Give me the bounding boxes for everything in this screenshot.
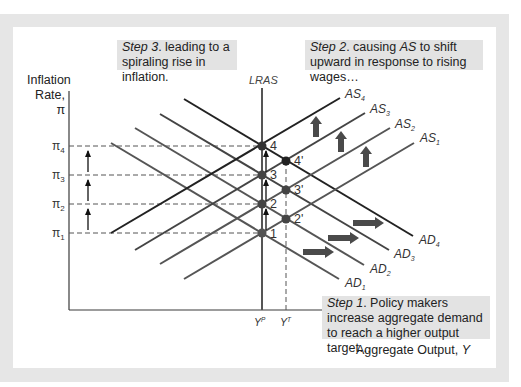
svg-text:AS1: AS1 <box>419 131 440 146</box>
step2-note: Step 2. causing AS to shift upward in re… <box>305 40 483 70</box>
figure: 4 3 2 1 4' 3' 2' π4 π3 π2 π1 YP YT LRAS … <box>0 0 521 387</box>
as3-curve <box>135 113 365 250</box>
svg-text:1: 1 <box>270 227 277 241</box>
step1-note: Step 1. Policy makers increase aggregate… <box>322 296 490 339</box>
svg-text:4: 4 <box>270 139 277 153</box>
step3-note: Step 3. leading to a spiraling rise in i… <box>117 40 237 70</box>
svg-text:2': 2' <box>294 212 303 226</box>
svg-text:π2: π2 <box>52 197 65 213</box>
svg-text:π3: π3 <box>52 168 65 184</box>
as4-curve <box>111 98 340 233</box>
svg-text:AD2: AD2 <box>369 262 391 277</box>
svg-text:3: 3 <box>270 168 277 182</box>
right-arrow-icon <box>303 246 334 258</box>
up-arrow-icon <box>310 116 322 137</box>
svg-text:4': 4' <box>294 154 303 168</box>
svg-text:π1: π1 <box>52 226 65 242</box>
svg-text:AD3: AD3 <box>393 247 415 262</box>
svg-text:π4: π4 <box>52 139 65 155</box>
right-arrow-icon <box>328 232 359 244</box>
inflation-tick-labels: π4 π3 π2 π1 <box>52 139 65 242</box>
svg-text:AS4: AS4 <box>344 87 365 102</box>
svg-text:YT: YT <box>280 316 292 328</box>
y-axis-label: Inflation Rate, π <box>27 73 65 118</box>
svg-text:2: 2 <box>270 197 277 211</box>
svg-text:AS3: AS3 <box>369 102 390 117</box>
svg-text:AD1: AD1 <box>344 276 366 291</box>
up-arrow-icon <box>360 146 372 167</box>
ad2-curve <box>135 128 364 265</box>
ad1-curve <box>111 143 339 279</box>
svg-text:3': 3' <box>294 183 303 197</box>
lras-label: LRAS <box>249 74 278 86</box>
as-shift-arrows <box>310 116 372 167</box>
svg-text:AS2: AS2 <box>394 117 415 132</box>
output-tick-labels: YP YT <box>254 316 292 328</box>
right-arrow-icon <box>353 217 384 229</box>
up-arrow-icon <box>335 131 347 152</box>
svg-text:AD4: AD4 <box>418 233 440 248</box>
svg-text:YP: YP <box>254 316 266 328</box>
x-axis-label: Aggregate Output, Y <box>356 343 470 358</box>
